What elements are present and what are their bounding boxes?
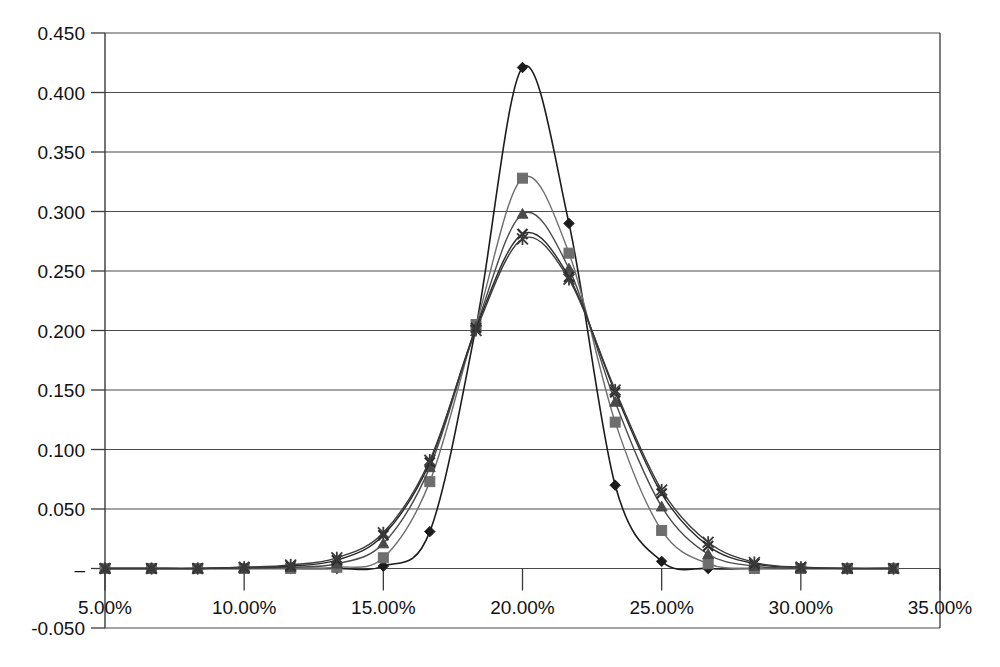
y-axis-label: 0.300 (37, 202, 85, 223)
data-point-marker-diamond (610, 480, 620, 490)
series-5-star (100, 233, 899, 575)
data-point-marker-square (703, 559, 713, 569)
x-axis-label: 30.00% (769, 597, 834, 618)
data-point-marker-square (518, 173, 528, 183)
data-point-marker-square (657, 525, 667, 535)
data-point-marker-square (425, 477, 435, 487)
y-axis-label: – (74, 559, 85, 580)
x-axis-label: 25.00% (629, 597, 694, 618)
series-line (105, 232, 894, 568)
series-group (100, 62, 899, 574)
y-axis-label: -0.050 (31, 618, 85, 639)
y-axis-label: 0.250 (37, 261, 85, 282)
series-line (105, 66, 894, 570)
series-3-triangle (100, 208, 899, 572)
series-2-square (100, 173, 899, 573)
series-line (105, 237, 894, 568)
y-axis-label: 0.450 (37, 23, 85, 44)
chart-container: 0.4500.4000.3500.3000.2500.2000.1500.100… (0, 0, 1000, 667)
normal-distribution-line-chart: 0.4500.4000.3500.3000.2500.2000.1500.100… (0, 0, 1000, 667)
x-axis-label: 10.00% (212, 597, 277, 618)
data-point-marker-diamond (564, 218, 574, 228)
y-axis-label: 0.400 (37, 83, 85, 104)
x-axis-label: 5.00% (78, 597, 132, 618)
data-point-marker-triangle (656, 501, 667, 511)
y-axis-label: 0.100 (37, 440, 85, 461)
data-point-marker-square (610, 417, 620, 427)
x-axis-label: 35.00% (908, 597, 973, 618)
y-axis-tick-labels: 0.4500.4000.3500.3000.2500.2000.1500.100… (31, 23, 85, 639)
series-4-x (100, 229, 899, 573)
data-point-marker-triangle (517, 208, 528, 218)
series-1-diamond (100, 62, 899, 573)
data-point-marker-diamond (517, 62, 527, 72)
y-axis-label: 0.150 (37, 380, 85, 401)
series-line (105, 176, 894, 569)
data-point-marker-diamond (425, 526, 435, 536)
gridlines-group (105, 33, 940, 628)
data-point-marker-square (378, 553, 388, 563)
y-axis-label: 0.350 (37, 142, 85, 163)
data-point-marker-square (564, 248, 574, 258)
x-axis-tick-labels: 5.00%10.00%15.00%20.00%25.00%30.00%35.00… (78, 597, 972, 618)
x-axis-label: 15.00% (351, 597, 416, 618)
y-axis-label: 0.050 (37, 499, 85, 520)
y-axis-label: 0.200 (37, 321, 85, 342)
x-axis-label: 20.00% (490, 597, 555, 618)
